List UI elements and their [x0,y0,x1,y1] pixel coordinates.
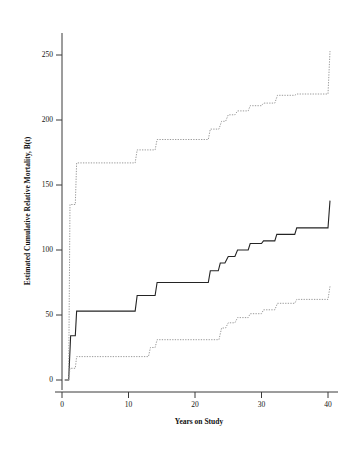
y-tick-label: 100 [42,245,54,254]
y-axis-group: 050100150200250 [42,33,62,390]
y-tick-label: 200 [42,115,54,124]
x-tick-label: 0 [60,400,64,409]
x-tick-label: 30 [258,400,266,409]
y-tick-label: 50 [46,310,54,319]
x-axis-group: 010203040 [55,392,338,409]
x-tick-label: 20 [191,400,199,409]
y-tick-label: 0 [49,375,53,384]
x-tick-label: 40 [324,400,332,409]
figure-container: 050100150200250 010203040 Years on Study… [0,0,357,454]
curve-group [65,51,330,380]
x-tick-label: 10 [125,400,133,409]
y-tick-label: 150 [42,180,54,189]
y-tick-label: 250 [42,50,54,59]
x-tick-group: 010203040 [60,392,332,409]
y-tick-group: 050100150200250 [42,50,62,384]
curve-dotted [69,51,330,380]
curve-solid [65,201,330,380]
y-axis-title: Estimated Cumulative Relative Mortality,… [23,136,32,285]
curve-dotted [69,286,330,380]
survival-step-chart: 050100150200250 010203040 Years on Study… [0,0,357,454]
x-axis-title: Years on Study [175,417,224,426]
